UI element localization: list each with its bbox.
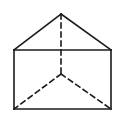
edge-apex_top-to-front_top_right — [61, 14, 111, 50]
prism-figure — [0, 0, 119, 119]
hidden-edges-dashed — [14, 14, 111, 109]
visible-edges — [14, 14, 111, 109]
hidden-edge-hidden_back-to-front_bottom_left — [14, 74, 61, 109]
triangular-prism-diagram — [0, 0, 119, 119]
edge-apex_top-to-front_top_left — [14, 14, 61, 50]
hidden-edge-hidden_back-to-front_bottom_right — [61, 74, 111, 109]
